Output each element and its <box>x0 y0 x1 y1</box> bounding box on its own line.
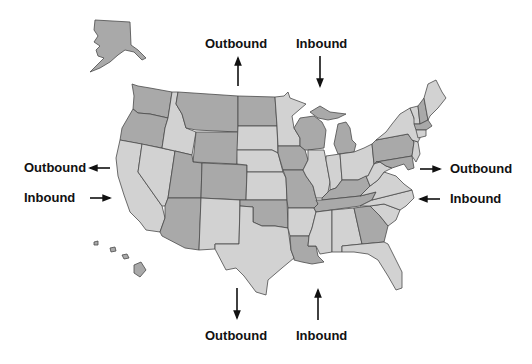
state-CT <box>416 130 426 138</box>
label-right-outbound: Outbound <box>450 161 512 176</box>
label-right-inbound: Inbound <box>450 191 501 206</box>
state-AK <box>90 20 146 72</box>
label-left-outbound: Outbound <box>24 160 86 175</box>
state-IA <box>278 146 308 170</box>
state-CO <box>201 163 247 200</box>
state-MT <box>176 92 238 132</box>
label-top-outbound: Outbound <box>205 36 267 51</box>
label-top-inbound: Inbound <box>296 36 347 51</box>
us-map <box>0 0 532 364</box>
state-WY <box>193 132 238 164</box>
label-bottom-inbound: Inbound <box>296 328 347 343</box>
state-SD <box>237 126 278 153</box>
label-bottom-outbound: Outbound <box>205 328 267 343</box>
state-AZ <box>160 198 201 250</box>
state-NM <box>199 198 240 250</box>
state-FL <box>342 242 402 290</box>
state-ME <box>424 80 446 120</box>
label-left-inbound: Inbound <box>24 190 75 205</box>
state-ND <box>238 96 277 126</box>
state-HI <box>94 241 146 277</box>
state-KS <box>246 172 287 200</box>
